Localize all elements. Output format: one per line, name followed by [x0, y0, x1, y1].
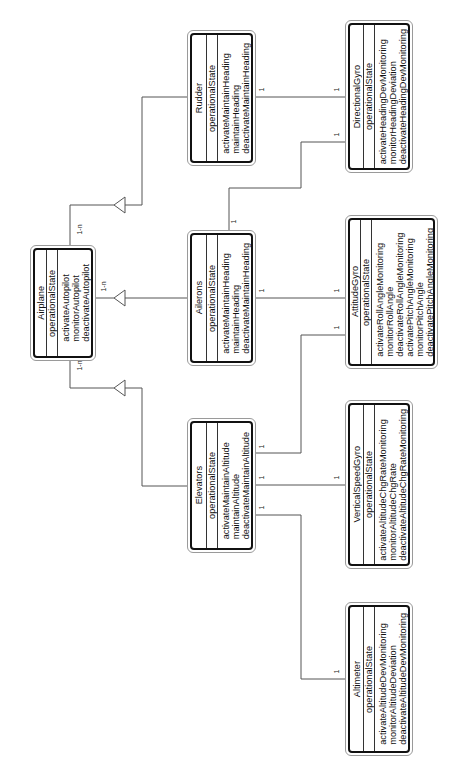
class-vertical-speed-gyro[interactable]: VerticalSpeedGyro operationalState activ…: [345, 400, 413, 569]
class-operations: activateMaintainHeading maintainHeading …: [221, 43, 251, 154]
class-rudder[interactable]: Rudder operationalState activateMaintain…: [187, 30, 256, 166]
class-operations: activateHeadingDevMonitoring monitorHead…: [378, 29, 408, 164]
generalization-arrow-icon: [114, 380, 125, 396]
class-ailerons[interactable]: Ailerons operationalState activateMainta…: [187, 230, 256, 366]
class-attribute: operationalState: [207, 452, 217, 519]
class-operations: activateAutopilot monitorAutopilot deact…: [61, 264, 91, 342]
multiplicity-label: 1: [333, 670, 340, 674]
multiplicity-label: 1-n: [100, 281, 107, 291]
class-operations: activateAltitudeDevMonitoring monitorAlt…: [378, 613, 408, 745]
class-airplane[interactable]: Airplane operationalState activateAutopi…: [30, 245, 96, 361]
class-attribute: operationalState: [207, 65, 217, 132]
class-name: AttitudeGyro: [350, 266, 360, 317]
class-name: Airplane: [36, 286, 46, 320]
multiplicity-label: 1: [258, 476, 265, 480]
class-name: Rudder: [194, 83, 204, 113]
class-attribute: operationalState: [364, 646, 374, 713]
multiplicity-label: 1: [258, 445, 265, 449]
class-altimeter[interactable]: Altimeter operationalState activateAltit…: [345, 602, 413, 756]
class-attribute: operationalState: [47, 270, 57, 337]
multiplicity-label: 1: [333, 476, 340, 480]
generalization-arrow-icon: [114, 290, 125, 306]
class-directional-gyro[interactable]: DirectionalGyro operationalState activat…: [345, 20, 413, 173]
multiplicity-label: 1: [333, 289, 340, 293]
multiplicity-label: 1-n: [76, 224, 83, 234]
class-name: Altimeter: [352, 661, 362, 697]
multiplicity-label: 1: [258, 506, 265, 510]
generalization-arrow-icon: [114, 197, 125, 213]
link-elevators-attitudegyro: [255, 335, 345, 453]
class-attitude-gyro[interactable]: AttitudeGyro operationalState activateRo…: [345, 215, 438, 369]
class-attribute: operationalState: [361, 259, 371, 326]
multiplicity-label: 1: [230, 220, 237, 224]
multiplicity-label: 1: [333, 133, 340, 137]
class-elevators[interactable]: Elevators operationalState activateMaint…: [187, 418, 256, 553]
class-name: VerticalSpeedGyro: [352, 446, 362, 523]
multiplicity-label: 1: [258, 88, 265, 92]
multiplicity-label: 1-n: [76, 360, 83, 370]
class-name: Elevators: [194, 466, 204, 504]
class-operations: activateMaintainHeading maintainHeading …: [221, 243, 251, 354]
class-attribute: operationalState: [207, 265, 217, 332]
class-name: Ailerons: [194, 281, 204, 314]
class-operations: activateMaintainAltitude maintainAltitud…: [221, 432, 251, 539]
class-name: DirectionalGyro: [352, 65, 362, 128]
class-attribute: operationalState: [364, 451, 374, 518]
multiplicity-label: 1: [333, 326, 340, 330]
multiplicity-label: 1: [258, 289, 265, 293]
class-operations: activateRollAngleMonitoring monitorRollA…: [375, 228, 435, 357]
multiplicity-label: 1: [333, 88, 340, 92]
link-elevators-altimeter: [255, 515, 345, 679]
class-attribute: operationalState: [364, 63, 374, 130]
class-operations: activateAltitudeChgRateMonitoring monito…: [378, 409, 408, 561]
